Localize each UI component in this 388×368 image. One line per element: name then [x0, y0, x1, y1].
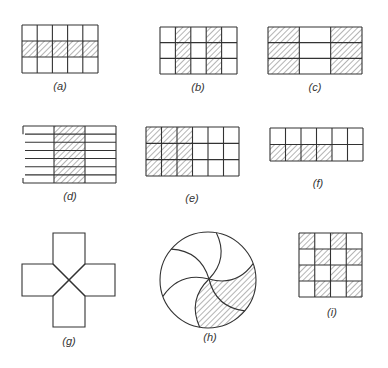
shaded-cell: [175, 58, 190, 74]
left-arm: [22, 264, 69, 296]
shaded-cell: [54, 126, 85, 134]
shaded-cell: [268, 58, 299, 74]
shaded-cell: [286, 145, 302, 162]
figure-e: [146, 127, 239, 176]
fraction-figures-canvas: (a) (b) (c) (d) (e) (f) (g) (h) (i): [0, 0, 388, 368]
shaded-cell: [315, 281, 331, 297]
shaded-cell: [331, 58, 362, 74]
shaded-cell: [331, 43, 362, 59]
figure-d: [23, 126, 116, 183]
label-g: (g): [62, 335, 76, 347]
label-a: (a): [53, 80, 67, 92]
curved-spoke: [171, 249, 209, 279]
shaded-cell: [54, 175, 85, 183]
right-arm: [69, 264, 115, 296]
shaded-cell: [162, 127, 178, 143]
figure-i-checkerboard: [299, 233, 362, 297]
shaded-cell: [331, 265, 347, 281]
shaded-cell: [54, 134, 85, 142]
shaded-cell: [299, 265, 315, 281]
figure-f: [270, 128, 363, 161]
shaded-cell: [175, 43, 190, 59]
figure-c: [268, 27, 362, 74]
label-i: (i): [327, 306, 337, 318]
label-b: (b): [191, 81, 205, 93]
figure-b: [160, 27, 237, 74]
shaded-cell: [54, 167, 85, 175]
shaded-cell: [37, 41, 52, 57]
shaded-cell: [54, 142, 85, 150]
shaded-bottom-arm: [53, 280, 85, 327]
shaded-cell: [146, 160, 162, 176]
shaded-cell: [301, 145, 317, 162]
shaded-cell: [346, 281, 362, 297]
shaded-cell: [54, 159, 85, 167]
figure-h-pinwheel-circle: [160, 232, 256, 328]
shaded-cell: [146, 143, 162, 159]
shaded-cell: [175, 27, 190, 43]
shaded-cell: [268, 27, 299, 43]
shaded-cell: [315, 249, 331, 265]
shaded-cell: [268, 43, 299, 59]
label-f: (f): [313, 177, 324, 189]
shaded-cell: [162, 143, 178, 159]
shaded-cell: [52, 41, 67, 57]
shaded-cell: [331, 233, 347, 249]
label-d: (d): [63, 190, 77, 202]
label-c: (c): [309, 81, 322, 93]
shaded-cell: [317, 145, 333, 162]
shaded-cell: [177, 160, 193, 176]
shaded-cell: [177, 127, 193, 143]
shaded-cell: [299, 233, 315, 249]
figure-g-cross: [22, 233, 115, 327]
shaded-cell: [22, 41, 37, 57]
curved-spoke: [209, 233, 221, 279]
shaded-cell: [346, 249, 362, 265]
shaded-cell: [146, 127, 162, 143]
shaded-cell: [177, 143, 193, 159]
shaded-cell: [83, 41, 98, 57]
shaded-cell: [206, 27, 221, 43]
shaded-cell: [206, 58, 221, 74]
shaded-sectors: [195, 264, 256, 328]
shaded-cell: [270, 145, 286, 162]
shaded-cell: [54, 150, 85, 158]
shaded-cell: [331, 27, 362, 43]
label-h: (h): [203, 331, 217, 343]
figure-a: [22, 25, 98, 73]
shaded-cell: [206, 43, 221, 59]
shaded-cell: [68, 41, 83, 57]
shaded-top-arm: [53, 233, 85, 280]
shaded-cell: [162, 160, 178, 176]
label-e: (e): [185, 192, 199, 204]
